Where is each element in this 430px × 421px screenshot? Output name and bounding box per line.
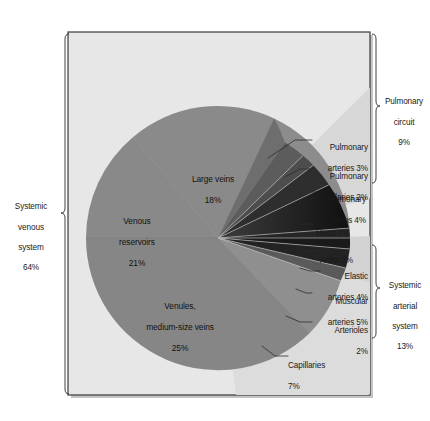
pie-label-venous-reservoirs: Venous reservoirs 21% [96, 206, 178, 279]
callout-capillaries: Capillaries 7% [288, 351, 360, 402]
bracket-label-systemic-arterial-system-line3: system [380, 322, 430, 332]
pie-label-venous-reservoirs-line3: 21% [96, 258, 178, 268]
bracket-label-systemic-venous-system: Systemic venous system 64% [4, 192, 58, 284]
callout-capillaries-line1: Capillaries [288, 361, 360, 371]
bracket-label-pulmonary-circuit-line2: circuit [378, 118, 430, 128]
callout-heart-line1: Heart 7% [316, 229, 376, 239]
callout-pulmonary-veins-line1: Pulmonary [240, 195, 366, 205]
callout-pulmonary-arteries-line1: Pulmonary [238, 143, 368, 153]
callout-capillaries-line2: 7% [288, 382, 360, 392]
callout-muscular-arteries-line1: Muscular [248, 297, 368, 307]
pie-label-venules-line3: 25% [110, 343, 250, 353]
figure-canvas: Large veins 18% Venous reservoirs 21% Ve… [0, 0, 430, 421]
bracket-label-pulmonary-circuit: Pulmonary circuit 9% [378, 87, 430, 158]
pie-label-venules-line1: Venules, [110, 301, 250, 311]
pie-label-venous-reservoirs-line2: reservoirs [96, 237, 178, 247]
bracket-label-systemic-venous-system-line3: system [4, 243, 58, 253]
bracket-label-pulmonary-circuit-line1: Pulmonary [378, 97, 430, 107]
pie-label-venules: Venules, medium-size veins 25% [110, 291, 250, 364]
bracket-label-systemic-arterial-system-line4: 13% [380, 342, 430, 352]
bracket-label-systemic-venous-system-line4: 64% [4, 263, 58, 273]
bracket-label-systemic-arterial-system: Systemic arterial system 13% [380, 271, 430, 363]
bracket-label-systemic-arterial-system-line1: Systemic [380, 281, 430, 291]
callout-pulmonary-capillaries-line1: Pulmonary [230, 172, 368, 182]
bracket-label-systemic-venous-system-line1: Systemic [4, 202, 58, 212]
pie-label-venules-line2: medium-size veins [110, 322, 250, 332]
pie-label-venous-reservoirs-line1: Venous [96, 216, 178, 226]
bracket-label-systemic-arterial-system-line2: arterial [380, 302, 430, 312]
bracket-label-pulmonary-circuit-line3: 9% [378, 138, 430, 148]
callout-elastic-arteries-line1: Elastic [256, 272, 368, 282]
bracket-label-systemic-venous-system-line2: venous [4, 223, 58, 233]
callout-arterioles-line1: Arterioles [262, 326, 368, 336]
